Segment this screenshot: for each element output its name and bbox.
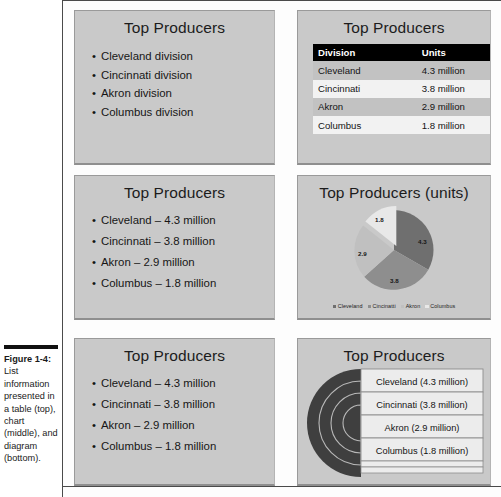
- slide-title: Top Producers: [298, 347, 490, 365]
- legend-item-akron: Akron: [401, 303, 421, 309]
- table-row: Columbus 1.8 million: [313, 116, 491, 134]
- legend-label: Cleveland: [338, 303, 363, 309]
- pie-chart: 4.3 3.8 2.9 1.8: [298, 204, 490, 292]
- list-item-label: Columbus – 1.8 million: [101, 440, 216, 452]
- bullet-dot: •: [92, 103, 101, 122]
- legend-item-cincinatti: Cincinatti: [368, 303, 396, 309]
- slide-bullet-list-values-bottom[interactable]: Top Producers •Cleveland – 4.3 million •…: [74, 338, 275, 486]
- legend-item-columbus: Columbus: [425, 303, 455, 309]
- legend-swatch-icon: [368, 305, 371, 308]
- chart-title: Top Producers (units): [298, 184, 490, 202]
- bullet-dot: •: [92, 373, 101, 394]
- caption-rule: [4, 345, 58, 349]
- list-item-label: Columbus division: [101, 106, 193, 118]
- diagram-row-label-akron: Akron (2.9 million): [385, 423, 460, 433]
- slide-pie-chart[interactable]: Top Producers (units) 4.3 3.8 2.9 1.8 Cl…: [297, 175, 491, 320]
- bullet-list: •Cleveland – 4.3 million •Cincinnati – 3…: [92, 210, 266, 294]
- list-item: •Columbus division: [92, 103, 266, 122]
- chart-legend: ClevelandCincinattiAkronColumbus: [298, 303, 490, 309]
- list-item: •Akron – 2.9 million: [92, 252, 266, 273]
- list-item: •Akron – 2.9 million: [92, 415, 266, 436]
- bottom-border-rule: [62, 486, 501, 487]
- slide-title: Top Producers: [75, 347, 274, 365]
- list-item: •Cleveland division: [92, 47, 266, 66]
- list-item: •Columbus – 1.8 million: [92, 436, 266, 457]
- figure-page: Figure 1-4: List information presented i…: [0, 0, 501, 497]
- smartart-diagram: Cleveland (4.3 million) Cincinnati (3.8 …: [298, 365, 490, 486]
- legend-label: Cincinatti: [373, 303, 396, 309]
- bullet-dot: •: [92, 210, 101, 231]
- cell-units: 1.8 million: [417, 116, 491, 134]
- figure-caption: Figure 1-4: List information presented i…: [4, 353, 60, 465]
- diagram-row-rule: [361, 461, 483, 467]
- list-item-label: Akron division: [101, 87, 172, 99]
- cell-units: 4.3 million: [417, 61, 491, 79]
- table-row: Cleveland 4.3 million: [313, 61, 491, 79]
- column-header-units: Units: [417, 44, 491, 61]
- column-header-division: Division: [313, 44, 417, 61]
- list-item-label: Akron – 2.9 million: [101, 419, 195, 431]
- legend-item-cleveland: Cleveland: [333, 303, 363, 309]
- bullet-dot: •: [92, 84, 101, 103]
- bullet-dot: •: [92, 252, 101, 273]
- list-item: •Cincinnati division: [92, 66, 266, 85]
- column-divider: [62, 0, 63, 497]
- cell-units: 3.8 million: [417, 80, 491, 98]
- slide-diagram[interactable]: Top Producers Cleveland (4.3 million) Ci…: [297, 338, 491, 486]
- legend-swatch-icon: [401, 305, 404, 308]
- cell-division: Cincinnati: [313, 80, 417, 98]
- diagram-row-label-cincinnati: Cincinnati (3.8 million): [376, 400, 467, 410]
- table-header-row: Division Units: [313, 44, 491, 61]
- cell-division: Cleveland: [313, 61, 417, 79]
- bullet-dot: •: [92, 47, 101, 66]
- pie-chart-svg: 4.3 3.8 2.9 1.8: [329, 204, 459, 296]
- bullet-list: •Cleveland division •Cincinnati division…: [92, 47, 266, 121]
- pie-label-columbus: 1.8: [375, 216, 384, 223]
- table-row: Akron 2.9 million: [313, 98, 491, 116]
- bullet-dot: •: [92, 231, 101, 252]
- list-item: •Akron division: [92, 84, 266, 103]
- list-item-label: Cincinnati – 3.8 million: [101, 235, 215, 247]
- producers-table: Division Units Cleveland 4.3 million Cin…: [313, 44, 491, 134]
- diagram-row-rule: [361, 467, 483, 473]
- bullet-dot: •: [92, 436, 101, 457]
- pie-label-cincinatti: 3.8: [390, 277, 399, 284]
- legend-swatch-icon: [333, 305, 336, 308]
- slide-title: Top Producers: [75, 19, 274, 37]
- diagram-svg: Cleveland (4.3 million) Cincinnati (3.8 …: [303, 365, 485, 483]
- list-item: •Cincinnati – 3.8 million: [92, 394, 266, 415]
- cell-division: Columbus: [313, 116, 417, 134]
- bullet-dot: •: [92, 394, 101, 415]
- list-item-label: Akron – 2.9 million: [101, 256, 195, 268]
- slide-bullet-list-plain[interactable]: Top Producers •Cleveland division •Cinci…: [74, 10, 275, 165]
- legend-label: Columbus: [430, 303, 455, 309]
- bullet-dot: •: [92, 415, 101, 436]
- legend-swatch-icon: [425, 305, 428, 308]
- figure-caption-label: Figure 1-4:: [4, 354, 51, 364]
- slide-title: Top Producers: [75, 184, 274, 202]
- diagram-row-label-cleveland: Cleveland (4.3 million): [376, 377, 468, 387]
- list-item-label: Columbus – 1.8 million: [101, 277, 216, 289]
- cell-division: Akron: [313, 98, 417, 116]
- list-item-label: Cleveland – 4.3 million: [101, 214, 216, 226]
- cell-units: 2.9 million: [417, 98, 491, 116]
- bullet-dot: •: [92, 273, 101, 294]
- list-item-label: Cleveland – 4.3 million: [101, 377, 216, 389]
- slide-table[interactable]: Top Producers Division Units Cleveland 4…: [297, 10, 491, 165]
- slide-bullet-list-values[interactable]: Top Producers •Cleveland – 4.3 million •…: [74, 175, 275, 320]
- bullet-list: •Cleveland – 4.3 million •Cincinnati – 3…: [92, 373, 266, 457]
- bullet-dot: •: [92, 66, 101, 85]
- pie-label-cleveland: 4.3: [418, 238, 427, 245]
- figure-caption-body: List information presented in a table (t…: [4, 365, 60, 464]
- list-item-label: Cincinnati – 3.8 million: [101, 398, 215, 410]
- diagram-row-label-columbus: Columbus (1.8 million): [376, 446, 468, 456]
- pie-label-akron: 2.9: [358, 250, 367, 257]
- top-border-rule: [62, 0, 501, 1]
- list-item: •Cleveland – 4.3 million: [92, 210, 266, 231]
- figure-caption-column: Figure 1-4: List information presented i…: [0, 0, 62, 497]
- list-item-label: Cleveland division: [101, 50, 193, 62]
- list-item: •Cleveland – 4.3 million: [92, 373, 266, 394]
- table-row: Cincinnati 3.8 million: [313, 80, 491, 98]
- legend-label: Akron: [406, 303, 421, 309]
- list-item-label: Cincinnati division: [101, 69, 192, 81]
